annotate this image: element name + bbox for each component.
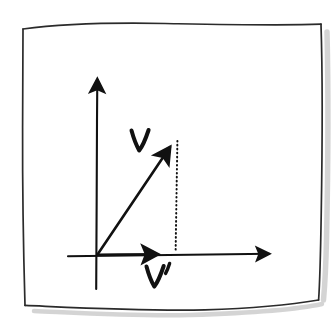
vector-v-label [132, 130, 149, 150]
vector-v-prime-arrow [98, 254, 158, 255]
vector-v-prime-label [147, 263, 170, 286]
vertical-axis [96, 80, 97, 289]
hand-drawn-frame [23, 23, 323, 310]
vector-v-arrow [98, 147, 171, 255]
vector-projection-figure: v v' [0, 0, 336, 329]
sketch-canvas: v v' [0, 0, 336, 329]
frame-drop-shadow [34, 32, 328, 315]
projection-dotted-guide [176, 141, 178, 253]
